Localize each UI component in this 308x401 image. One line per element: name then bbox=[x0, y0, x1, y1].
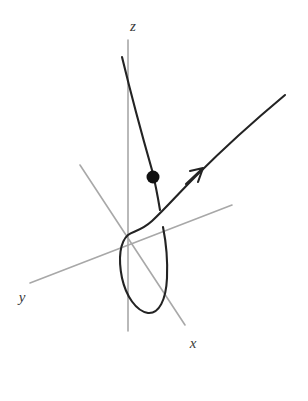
z-axis-label: z bbox=[129, 18, 136, 34]
curve-loop-branch bbox=[120, 95, 285, 313]
figure-container: z y x bbox=[0, 0, 308, 401]
marked-point-dot bbox=[147, 171, 160, 184]
space-curve-figure: z y x bbox=[0, 0, 308, 401]
curve-group bbox=[120, 57, 285, 313]
x-axis-label: x bbox=[189, 335, 197, 351]
direction-arrow-icon bbox=[186, 168, 203, 184]
y-axis-label: y bbox=[17, 289, 26, 305]
axes-group bbox=[30, 40, 232, 331]
